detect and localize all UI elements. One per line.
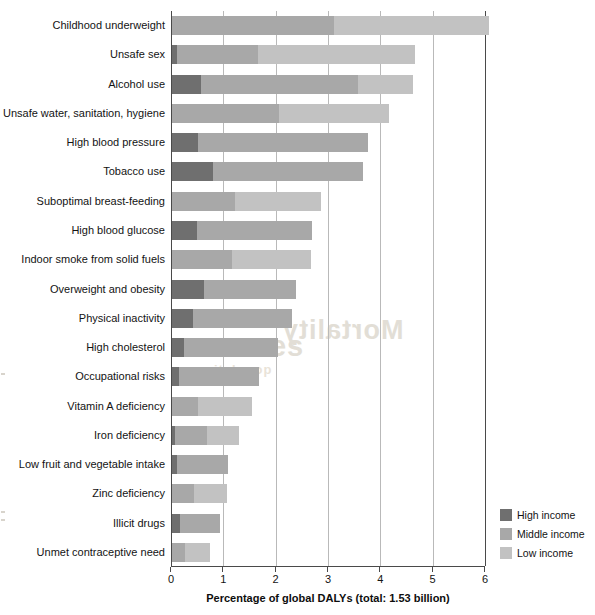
category-label: Unsafe water, sanitation, hygiene (0, 107, 165, 119)
tick-mark-0 (170, 567, 171, 572)
bar-segment (334, 16, 488, 35)
legend-label: High income (517, 509, 575, 521)
bar-row (172, 397, 252, 416)
bar-segment (198, 397, 252, 416)
plot-right-edge (485, 11, 486, 566)
bar-segment (172, 397, 198, 416)
category-label: Occupational risks (0, 370, 165, 382)
bar-row (172, 455, 228, 474)
bar-segment (172, 338, 184, 357)
legend-label: Middle income (517, 528, 585, 540)
tick-label-1: 1 (213, 573, 233, 585)
bar-row (172, 309, 292, 328)
tick-mark-4 (379, 567, 380, 572)
gridline-3 (328, 11, 329, 566)
tick-mark-3 (327, 567, 328, 572)
bar-segment (172, 543, 185, 562)
tick-label-4: 4 (370, 573, 390, 585)
legend-item: High income (500, 506, 595, 523)
bar-segment (172, 367, 179, 386)
bar-segment (172, 250, 232, 269)
category-label: Unsafe sex (0, 48, 165, 60)
legend-swatch (500, 547, 512, 559)
bar-segment (179, 367, 259, 386)
category-label: Vitamin A deficiency (0, 400, 165, 412)
gridline-5 (433, 11, 434, 566)
category-label: Tobacco use (0, 165, 165, 177)
bar-row (172, 45, 415, 64)
bar-row (172, 162, 363, 181)
bar-segment (184, 338, 279, 357)
bar-segment (207, 426, 239, 445)
tick-label-6: 6 (475, 573, 495, 585)
bar-segment (172, 162, 213, 181)
bar-row (172, 367, 259, 386)
category-axis-labels: Childhood underweightUnsafe sexAlcohol u… (0, 11, 165, 567)
bar-segment (185, 543, 210, 562)
bar-segment (279, 104, 389, 123)
category-label: High cholesterol (0, 341, 165, 353)
bar-segment (172, 133, 198, 152)
bar-row (172, 484, 227, 503)
bar-row (172, 104, 389, 123)
legend-label: Low income (517, 547, 573, 559)
tick-label-5: 5 (423, 573, 443, 585)
bar-segment (175, 426, 206, 445)
bar-row (172, 192, 321, 211)
gridline-4 (380, 11, 381, 566)
bar-segment (213, 162, 363, 181)
category-label: High blood pressure (0, 136, 165, 148)
category-label: Zinc deficiency (0, 487, 165, 499)
bar-segment (201, 75, 358, 94)
bar-segment (172, 192, 235, 211)
bar-segment (235, 192, 321, 211)
bar-segment (358, 75, 413, 94)
legend-item: Middle income (500, 525, 595, 542)
bar-row (172, 543, 210, 562)
bar-segment (232, 250, 311, 269)
tick-label-2: 2 (266, 573, 286, 585)
bar-row (172, 514, 220, 533)
bar-segment (172, 104, 279, 123)
chart-legend: High incomeMiddle incomeLow income (500, 506, 595, 563)
tick-label-3: 3 (318, 573, 338, 585)
bar-row (172, 133, 368, 152)
category-label: Unmet contraceptive need (0, 546, 165, 558)
bar-segment (172, 280, 204, 299)
bar-segment (177, 455, 228, 474)
bar-segment (172, 16, 334, 35)
bar-segment (172, 309, 193, 328)
bar-segment (198, 133, 368, 152)
category-label: Suboptimal breast-feeding (0, 195, 165, 207)
bar-segment (258, 45, 415, 64)
category-label: Physical inactivity (0, 312, 165, 324)
tick-label-0: 0 (161, 573, 181, 585)
tick-mark-5 (432, 567, 433, 572)
bar-row (172, 75, 413, 94)
category-label: High blood glucose (0, 224, 165, 236)
bar-segment (172, 484, 194, 503)
legend-swatch (500, 509, 512, 521)
tick-mark-1 (222, 567, 223, 572)
bar-segment (204, 280, 296, 299)
bar-segment (180, 514, 220, 533)
bar-segment (172, 221, 197, 240)
category-label: Alcohol use (0, 78, 165, 90)
bar-row (172, 426, 239, 445)
category-label: Childhood underweight (0, 19, 165, 31)
bar-row (172, 338, 278, 357)
category-label: Low fruit and vegetable intake (0, 458, 165, 470)
category-label: Illicit drugs (0, 517, 165, 529)
bar-segment (172, 75, 201, 94)
category-label: Indoor smoke from solid fuels (0, 253, 165, 265)
bar-segment (177, 45, 258, 64)
bar-segment (194, 484, 227, 503)
stacked-bar-chart: Childhood underweightUnsafe sexAlcohol u… (0, 0, 595, 615)
legend-item: Low income (500, 544, 595, 561)
tick-mark-2 (275, 567, 276, 572)
bar-row (172, 280, 296, 299)
category-label: Overweight and obesity (0, 283, 165, 295)
tick-mark-6 (484, 567, 485, 572)
bar-row (172, 16, 489, 35)
bar-row (172, 221, 312, 240)
